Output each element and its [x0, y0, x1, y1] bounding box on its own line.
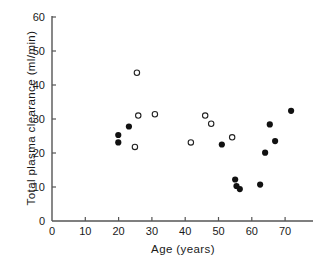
svg-text:60: 60 [246, 225, 258, 237]
svg-text:40: 40 [33, 79, 45, 91]
data-point [136, 113, 141, 118]
data-point [202, 113, 207, 118]
svg-text:20: 20 [33, 147, 45, 159]
data-point [232, 176, 238, 182]
svg-text:10: 10 [79, 225, 91, 237]
svg-text:10: 10 [33, 181, 45, 193]
data-point [288, 108, 294, 114]
data-point [262, 150, 268, 156]
svg-text:30: 30 [146, 225, 158, 237]
data-point [229, 135, 234, 140]
svg-text:70: 70 [279, 225, 291, 237]
svg-text:30: 30 [33, 113, 45, 125]
data-point [115, 139, 121, 145]
svg-text:0: 0 [49, 225, 55, 237]
data-point [208, 121, 213, 126]
data-point [132, 144, 137, 149]
scatter-plot-figure: Total plasma clearance (ml/min) Age (yea… [0, 0, 325, 264]
data-point [134, 70, 139, 75]
x-axis-ticks: 010203040506070 [49, 217, 291, 237]
svg-text:50: 50 [33, 45, 45, 57]
data-points-group [115, 70, 294, 192]
svg-text:0: 0 [39, 215, 45, 227]
svg-text:50: 50 [212, 225, 224, 237]
data-point [272, 138, 278, 144]
data-point [237, 186, 243, 192]
svg-text:20: 20 [112, 225, 124, 237]
data-point [219, 141, 225, 147]
data-point [188, 140, 193, 145]
plot-area: 010203040506070 0102030405060 [0, 0, 325, 264]
data-point [257, 182, 263, 188]
svg-text:60: 60 [33, 11, 45, 23]
data-point [115, 132, 121, 138]
data-point [126, 123, 132, 129]
axis-lines [52, 16, 313, 221]
data-point [267, 121, 273, 127]
svg-text:40: 40 [179, 225, 191, 237]
data-point [152, 112, 157, 117]
